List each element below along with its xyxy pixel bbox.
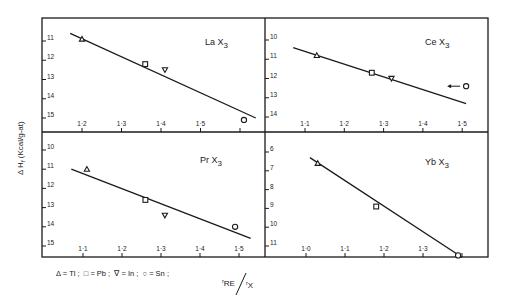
y-tick-label: 14: [47, 220, 55, 227]
x-tick-label: 1·4: [195, 245, 205, 252]
x-tick-label: 1·5: [457, 120, 467, 127]
y-tick-label: 12: [47, 181, 55, 188]
triangle-up-icon: [314, 53, 319, 58]
x-tick-label: 1·1: [340, 245, 350, 252]
panel-title: Yb X3: [425, 157, 450, 170]
triangle-down-icon: [162, 213, 167, 218]
y-tick-label: 13: [47, 73, 55, 80]
circle-icon: [456, 253, 461, 258]
y-tick-label: 14: [270, 110, 278, 117]
y-tick-label: 8: [270, 183, 274, 190]
y-axis-label: Δ Hf (Kcal/g-at): [16, 121, 26, 175]
x-tick-label: 1·3: [117, 120, 127, 127]
y-tick-label: 12: [47, 53, 55, 60]
x-tick-label: 1·3: [418, 245, 428, 252]
panel-lax3: 1·21·31·41·51112131415La X3: [42, 33, 256, 132]
panel-ybx3: 1·01·11·21·367891011Yb X3: [265, 145, 462, 258]
x-tick-label: 1·2: [117, 245, 127, 252]
y-tick-label: 15: [47, 111, 55, 118]
triangle-up-icon: Δ: [56, 269, 61, 278]
x-tick-label: 1·3: [156, 245, 166, 252]
circle-icon: [233, 224, 238, 229]
y-tick-label: 11: [47, 162, 54, 169]
svg-text:rX: rX: [246, 280, 254, 290]
circle-icon: [241, 117, 246, 122]
panel-prx3: 1·11·21·31·41·5101112131415Pr X3: [42, 143, 251, 257]
x-tick-label: 1·1: [78, 245, 88, 252]
legend-item-pb: □ = Pb ;: [84, 269, 110, 278]
x-tick-label: 1·2: [77, 120, 87, 127]
y-tick-label: 15: [47, 239, 55, 246]
y-tick-label: 10: [270, 33, 278, 40]
legend: Δ = Tl ; □ = Pb ; ∇ = In ; ○ = Sn ;: [56, 269, 169, 278]
legend-item-in: ∇ = In ;: [114, 269, 138, 278]
circle-icon: [464, 84, 469, 89]
square-icon: [143, 62, 148, 67]
circle-icon: ○: [143, 269, 148, 278]
panel-title: Pr X3: [200, 155, 223, 168]
triangle-down-icon: [162, 68, 167, 73]
square-icon: [374, 204, 379, 209]
fit-line: [71, 169, 250, 238]
y-tick-label: 14: [47, 92, 55, 99]
triangle-up-icon: [84, 167, 89, 172]
y-tick-label: 11: [270, 239, 277, 246]
y-tick-label: 11: [47, 34, 54, 41]
fit-line: [310, 158, 462, 258]
svg-text:rRE: rRE: [222, 278, 235, 288]
y-tick-label: 13: [47, 201, 55, 208]
x-axis-label: rRE rX: [222, 273, 254, 295]
x-tick-label: 1·0: [301, 245, 311, 252]
panel-title: La X3: [205, 37, 229, 50]
y-tick-label: 9: [270, 201, 274, 208]
y-tick-label: 12: [270, 72, 278, 79]
x-tick-label: 1·2: [340, 120, 350, 127]
y-tick-label: 7: [270, 164, 274, 171]
square-icon: [143, 198, 148, 203]
x-tick-label: 1·5: [234, 245, 244, 252]
square-icon: [369, 70, 374, 75]
x-tick-label: 1·4: [156, 120, 166, 127]
x-tick-label: 1·5: [196, 120, 206, 127]
triangle-down-icon: ∇: [114, 269, 119, 278]
y-tick-label: 11: [270, 52, 277, 59]
square-icon: □: [84, 269, 89, 278]
y-tick-label: 10: [270, 220, 278, 227]
x-tick-label: 1·2: [379, 245, 389, 252]
chart-figure: 1·21·31·41·51112131415La X3 1·11·21·31·4…: [0, 0, 511, 307]
x-tick-label: 1·3: [379, 120, 389, 127]
x-tick-label: 1·1: [300, 120, 310, 127]
arrow-head-icon: [447, 84, 451, 88]
y-tick-label: 13: [270, 91, 278, 98]
legend-item-tl: Δ = Tl ;: [56, 269, 80, 278]
panel-cex3: 1·11·21·31·41·51011121314Ce X3: [265, 33, 469, 132]
legend-item-sn: ○ = Sn ;: [143, 269, 169, 278]
panel-title: Ce X3: [425, 37, 450, 50]
y-tick-label: 10: [47, 143, 55, 150]
x-tick-label: 1·4: [418, 120, 428, 127]
y-tick-label: 6: [270, 145, 274, 152]
